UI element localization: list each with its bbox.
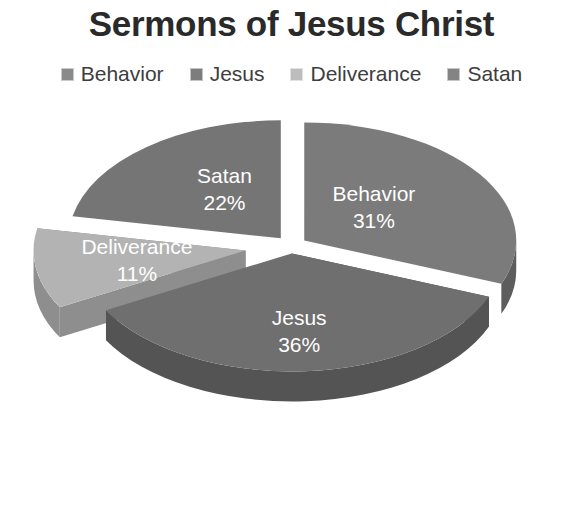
slice-value-deliverance: 11% — [117, 262, 157, 285]
pie-chart-figure: Sermons of Jesus Christ Behavior Jesus D… — [0, 0, 583, 511]
legend-swatch-jesus — [190, 68, 203, 81]
legend-item-jesus[interactable]: Jesus — [190, 62, 265, 86]
legend-item-deliverance[interactable]: Deliverance — [290, 62, 421, 86]
legend-swatch-deliverance — [290, 68, 303, 81]
legend-swatch-satan — [447, 68, 460, 81]
slice-label-deliverance: Deliverance — [81, 235, 192, 258]
pie-plot-area: Behavior31%Jesus36%Deliverance11%Satan22… — [0, 98, 583, 428]
pie-svg: Behavior31%Jesus36%Deliverance11%Satan22… — [0, 98, 583, 428]
slice-label-satan: Satan — [197, 164, 252, 187]
legend-label-satan: Satan — [467, 62, 522, 86]
chart-legend: Behavior Jesus Deliverance Satan — [61, 62, 523, 86]
slice-value-jesus: 36% — [278, 333, 320, 356]
slice-label-behavior: Behavior — [332, 182, 415, 205]
legend-item-behavior[interactable]: Behavior — [61, 62, 164, 86]
legend-label-jesus: Jesus — [210, 62, 265, 86]
slice-value-behavior: 31% — [353, 209, 395, 232]
chart-title: Sermons of Jesus Christ — [89, 4, 494, 44]
slice-label-jesus: Jesus — [272, 306, 327, 329]
legend-label-deliverance: Deliverance — [310, 62, 421, 86]
legend-label-behavior: Behavior — [81, 62, 164, 86]
slice-value-satan: 22% — [204, 191, 246, 214]
legend-item-satan[interactable]: Satan — [447, 62, 522, 86]
legend-swatch-behavior — [61, 68, 74, 81]
